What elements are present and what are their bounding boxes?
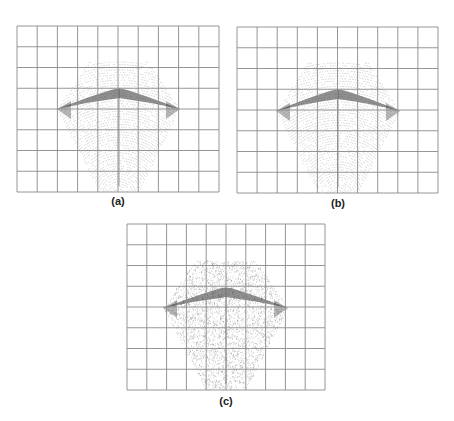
vertex-lobe [274, 300, 288, 318]
point-cloud-plot-c [0, 0, 454, 421]
grid [127, 224, 325, 390]
vertex-lobe [163, 300, 177, 318]
point-cloud [163, 261, 288, 390]
caption-c: (c) [219, 395, 232, 407]
